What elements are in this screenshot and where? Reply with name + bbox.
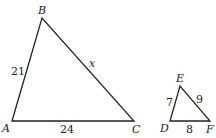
triangle-def — [170, 86, 210, 121]
side-label-ab: 21 — [11, 65, 25, 78]
vertex-label-a: A — [1, 122, 10, 135]
vertex-label-f: F — [205, 123, 214, 136]
side-label-df: 8 — [186, 123, 193, 136]
vertex-label-c: C — [132, 123, 141, 136]
vertex-label-e: E — [175, 72, 184, 85]
side-label-de: 7 — [166, 96, 173, 109]
triangle-abc — [12, 18, 134, 121]
vertex-label-b: B — [37, 4, 46, 17]
side-label-bc: x — [89, 57, 96, 70]
side-label-ef: 9 — [196, 93, 203, 106]
side-label-ac: 24 — [60, 123, 74, 136]
vertex-label-d: D — [159, 122, 169, 135]
similar-triangles-diagram: A B C 21 x 24 D E F 7 9 8 — [0, 0, 216, 138]
